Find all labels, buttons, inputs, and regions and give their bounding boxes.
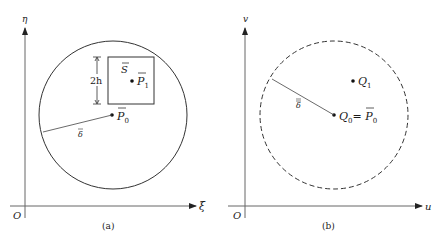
P1-label: P1 bbox=[136, 75, 149, 90]
panel-b: v u O Q1 Q0= P0 δ (b) bbox=[228, 14, 431, 231]
caption-a: (a) bbox=[102, 221, 114, 231]
xi-label: ξ bbox=[199, 200, 206, 213]
point-Q1 bbox=[351, 79, 355, 83]
caption-b: (b) bbox=[322, 221, 335, 231]
v-label: v bbox=[243, 14, 248, 24]
Q0-label: Q0= P0 bbox=[339, 110, 377, 125]
Q1-label: Q1 bbox=[358, 75, 372, 90]
point-P1 bbox=[130, 79, 134, 83]
square-label: S bbox=[121, 64, 128, 75]
radius-line-b bbox=[272, 79, 334, 115]
origin-label: O bbox=[13, 210, 21, 221]
panel-a: η ξ O S 2h P1 P0 δ (a) bbox=[10, 14, 206, 231]
delta-label-b: δ bbox=[296, 101, 301, 110]
origin-label-b: O bbox=[233, 210, 241, 221]
delta-label-a: δ bbox=[78, 130, 83, 139]
figure: η ξ O S 2h P1 P0 δ (a) bbox=[0, 0, 438, 240]
P0-label: P0 bbox=[116, 110, 129, 125]
u-label: u bbox=[425, 201, 431, 212]
height-label: 2h bbox=[90, 75, 102, 86]
eta-label: η bbox=[22, 14, 28, 24]
